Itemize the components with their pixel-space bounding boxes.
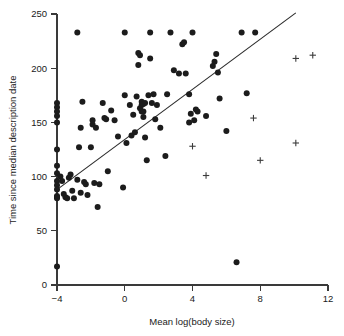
data-point-circle (84, 192, 90, 198)
data-point-circle (217, 96, 223, 102)
data-point-circle (54, 119, 60, 125)
data-point-circle (212, 59, 218, 65)
y-axis-ticks: 050100150200250 (31, 8, 57, 290)
data-point-circle (83, 181, 89, 187)
data-point-circle (120, 184, 126, 190)
data-point-circle (215, 70, 221, 76)
data-point-circle (54, 264, 60, 270)
plot-canvas: 050100150200250 −404812 Mean log(body si… (0, 0, 344, 336)
data-point-circle (171, 67, 177, 73)
data-point-circle (142, 135, 148, 141)
data-point-circle (135, 62, 141, 68)
data-point-circle (140, 109, 146, 115)
data-point-circle (78, 190, 84, 196)
data-point-circle (181, 39, 187, 45)
data-point-circle (154, 102, 160, 108)
y-tick-label: 150 (31, 117, 47, 128)
data-point-circle (79, 99, 85, 105)
data-point-circle (152, 116, 158, 122)
data-point-plus (310, 52, 316, 58)
data-point-circle (123, 140, 129, 146)
y-tick-label: 250 (31, 8, 47, 19)
data-point-circle (223, 128, 229, 134)
data-point-circle (54, 195, 60, 201)
data-point-circle (157, 125, 163, 131)
data-point-circle (213, 51, 219, 57)
data-point-circle (183, 71, 189, 77)
data-point-circle (162, 153, 168, 159)
data-point-circle (91, 180, 97, 186)
data-point-circle (134, 93, 140, 99)
data-point-circle (122, 92, 128, 98)
x-tick-label: 12 (323, 293, 334, 304)
data-point-circle (115, 133, 121, 139)
data-point-plus (189, 143, 195, 149)
data-point-circle (142, 100, 148, 106)
data-point-circle (93, 125, 99, 131)
data-point-circle (103, 116, 109, 122)
data-point-plus (293, 55, 299, 61)
data-point-circle (147, 55, 153, 61)
data-point-circle (90, 117, 96, 123)
data-point-circle (68, 171, 74, 177)
data-point-circle (88, 144, 94, 150)
y-axis-title: Time since median description date (7, 75, 18, 224)
x-tick-label: 4 (190, 293, 195, 304)
data-point-circle (151, 91, 157, 97)
data-point-circle (71, 195, 77, 201)
data-point-circle (54, 147, 60, 153)
data-point-circle (203, 113, 209, 119)
axes (57, 14, 328, 285)
data-point-circle (74, 29, 80, 35)
data-point-circle (105, 168, 111, 174)
data-point-circle (252, 29, 258, 35)
data-point-circle (74, 177, 80, 183)
data-point-circle (64, 195, 70, 201)
y-tick-label: 200 (31, 63, 47, 74)
x-axis-ticks: −404812 (52, 285, 334, 304)
data-point-circle (195, 109, 201, 115)
data-point-circle (96, 181, 102, 187)
data-point-circle (244, 90, 250, 96)
data-point-circle (147, 29, 153, 35)
data-point-circle (127, 102, 133, 108)
data-point-circle (239, 29, 245, 35)
data-point-circle (144, 157, 150, 163)
data-point-plus (257, 157, 263, 163)
data-point-circle (78, 125, 84, 131)
data-point-circle (69, 188, 75, 194)
data-points-circles (54, 29, 258, 269)
data-point-circle (122, 29, 128, 35)
data-point-circle (188, 111, 194, 117)
data-point-plus (250, 115, 256, 121)
data-point-circle (145, 92, 151, 98)
x-tick-label: 0 (122, 293, 127, 304)
x-tick-label: −4 (52, 293, 63, 304)
data-point-circle (164, 91, 170, 97)
data-point-circle (137, 52, 143, 58)
y-tick-label: 0 (42, 279, 47, 290)
scatter-plot-figure: 050100150200250 −404812 Mean log(body si… (0, 0, 344, 336)
data-point-circle (100, 100, 106, 106)
data-point-circle (176, 71, 182, 77)
data-point-circle (54, 163, 60, 169)
data-point-circle (186, 91, 192, 97)
data-point-circle (234, 259, 240, 265)
data-point-circle (54, 187, 60, 193)
data-point-circle (76, 144, 82, 150)
data-point-circle (191, 117, 197, 123)
data-point-circle (54, 113, 60, 119)
data-point-circle (132, 129, 138, 135)
data-point-circle (130, 112, 136, 118)
x-tick-label: 8 (258, 293, 263, 304)
data-point-circle (95, 204, 101, 210)
data-point-circle (112, 117, 118, 123)
y-tick-label: 50 (36, 225, 47, 236)
x-axis-title: Mean log(body size) (149, 316, 235, 327)
data-point-circle (190, 29, 196, 35)
data-point-plus (293, 140, 299, 146)
data-point-plus (203, 172, 209, 178)
data-point-circle (140, 114, 146, 120)
data-point-circle (59, 178, 65, 184)
data-point-circle (108, 107, 114, 113)
